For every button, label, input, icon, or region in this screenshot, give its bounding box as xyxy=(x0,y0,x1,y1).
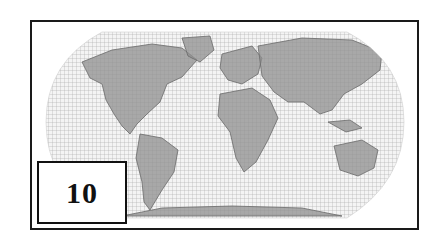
map-number-label: 10 xyxy=(37,161,127,224)
map-number: 10 xyxy=(66,176,98,210)
map-frame: 10 xyxy=(30,20,419,230)
